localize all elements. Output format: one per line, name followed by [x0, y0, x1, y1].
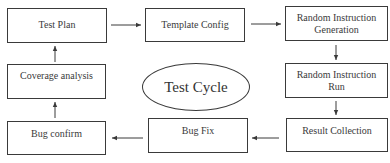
node-bug-confirm: Bug confirm	[7, 121, 106, 155]
node-random-instruction-generation: Random Instruction Generation	[285, 6, 388, 41]
node-label: Result Collection	[287, 125, 387, 137]
node-label: Coverage analysis	[8, 70, 105, 82]
node-bug-fix: Bug Fix	[148, 118, 248, 153]
node-result-collection: Result Collection	[286, 118, 388, 152]
node-random-instruction-run: Random Instruction Run	[285, 63, 388, 98]
node-label: Bug confirm	[8, 128, 105, 140]
node-test-plan: Test Plan	[7, 8, 107, 43]
node-label: Template Config	[146, 19, 244, 31]
node-coverage-analysis: Coverage analysis	[7, 64, 106, 99]
node-template-config: Template Config	[145, 8, 245, 42]
center-label: Test Cycle	[164, 79, 228, 96]
node-label: Test Plan	[8, 19, 106, 31]
node-label: Bug Fix	[149, 125, 247, 137]
node-label-line2: Run	[286, 81, 387, 93]
node-label-line1: Random Instruction	[286, 12, 387, 24]
node-label-line2: Generation	[286, 24, 387, 36]
node-label-line1: Random Instruction	[286, 69, 387, 81]
center-ellipse-test-cycle: Test Cycle	[142, 63, 250, 111]
